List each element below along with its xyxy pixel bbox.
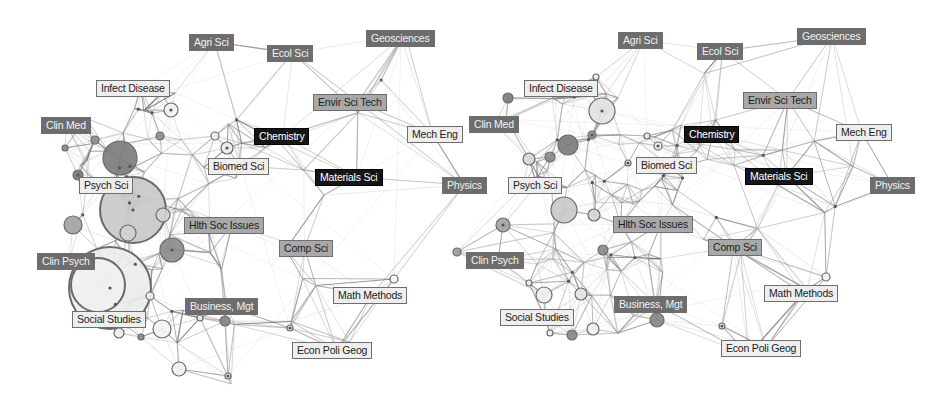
discipline-label-comp-sci: Comp Sci [708,239,762,256]
discipline-label-mech-eng: Mech Eng [836,124,892,141]
discipline-label-math-methods: Math Methods [764,285,838,302]
science-overlay-maps: Agri SciEcol SciGeosciencesInfect Diseas… [0,0,940,396]
discipline-label-agri-sci: Agri Sci [618,32,663,49]
discipline-label-econ-poli-geog: Econ Poli Geog [721,340,801,357]
discipline-label-social-studies: Social Studies [500,309,574,326]
discipline-label-psych-sci: Psych Sci [508,177,562,194]
discipline-label-envir-sci-tech: Envir Sci Tech [743,92,817,109]
discipline-label-biomed-sci: Biomed Sci [636,157,697,174]
discipline-label-business-mgt: Business, Mgt [614,296,687,313]
discipline-label-materials-sci: Materials Sci [745,168,813,185]
discipline-label-clin-med: Clin Med [469,116,519,133]
discipline-label-geosciences: Geosciences [797,28,866,45]
right-network-panel: Agri SciEcol SciGeosciencesInfect Diseas… [0,0,940,396]
discipline-label-ecol-sci: Ecol Sci [697,43,743,60]
discipline-label-physics: Physics [870,177,915,194]
discipline-label-hlth-soc-issues: Hlth Soc Issues [613,216,693,233]
discipline-label-infect-disease: Infect Disease [524,80,598,97]
discipline-label-clin-psych: Clin Psych [466,252,524,269]
discipline-label-chemistry: Chemistry [684,126,739,143]
